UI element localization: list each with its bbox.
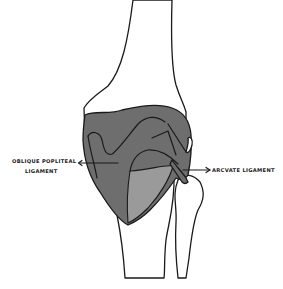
oblique-popliteal-label-line1: OBLIQUE POPLITEAL: [12, 158, 77, 164]
fibula: [175, 175, 203, 278]
knee-diagram: OBLIQUE POPLITEAL LIGAMENT ARCVATE LIGAM…: [0, 0, 283, 289]
arcuate-ligament-label: ARCVATE LIGAMENT: [212, 167, 275, 173]
oblique-popliteal-label-line2: LIGAMENT: [25, 168, 58, 174]
